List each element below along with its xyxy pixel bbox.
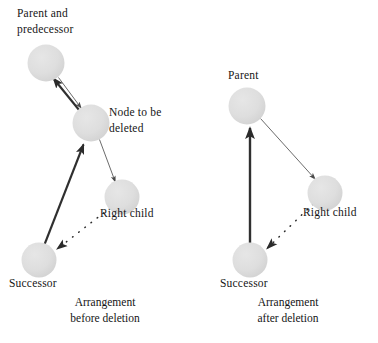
label-parent-and-predecessor-line1: Parent and (17, 6, 68, 22)
label-parent-right: Parent (228, 68, 259, 84)
diagram-canvas (0, 0, 378, 343)
caption-before-deletion-line1: Arrangement (45, 294, 165, 310)
node-successor-left (22, 243, 57, 278)
label-right-child-right: Right child (303, 205, 357, 221)
label-node-to-be-deleted-line1: Node to be (109, 105, 161, 121)
label-parent-and-predecessor-line2: predecessor (17, 22, 73, 38)
node-to-be-deleted (73, 105, 110, 142)
label-successor-left: Successor (9, 276, 57, 292)
label-node-to-be-deleted-line2: deleted (109, 121, 144, 137)
deletion-diagram-figure: Parent and predecessor Node to be delete… (0, 0, 378, 343)
caption-after-deletion-line1: Arrangement (228, 294, 348, 310)
edge-parent-to-node (59, 78, 82, 109)
left-panel-graph (22, 45, 140, 278)
edge-node-to-right-child (100, 140, 116, 183)
node-parent-right (229, 88, 266, 125)
caption-before-deletion-line2: before deletion (45, 310, 165, 326)
caption-after-deletion-line2: after deletion (228, 310, 348, 326)
edge-parent-to-right-child-right (261, 119, 316, 180)
edge-successor-to-node (45, 145, 84, 245)
node-successor-right (233, 243, 268, 278)
label-successor-right: Successor (220, 276, 268, 292)
right-panel-graph (229, 88, 343, 278)
label-right-child-left: Right child (100, 206, 154, 222)
node-parent-and-predecessor (28, 45, 65, 82)
